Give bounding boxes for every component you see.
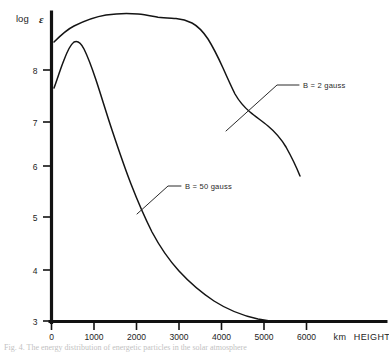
- curve-b2-gauss: [54, 13, 300, 176]
- y-tick-label-5: 5: [33, 213, 38, 223]
- annotation-label-b50: B = 50 gauss: [185, 182, 232, 191]
- figure-container: 8 7 6 5 4 3 0 1000 2000 3000 4000 5000 6…: [0, 0, 389, 355]
- y-tick-label-4: 4: [33, 266, 38, 276]
- y-axis-tick-labels: 8 7 6 5 4 3: [33, 66, 38, 327]
- x-axis-unit-label: km: [334, 332, 347, 342]
- leader-line-b2: [226, 85, 299, 131]
- y-tick-label-3: 3: [33, 317, 38, 327]
- plot-svg: 8 7 6 5 4 3 0 1000 2000 3000 4000 5000 6…: [0, 0, 389, 355]
- x-tick-label-6000: 6000: [297, 332, 316, 342]
- x-axis-tick-labels: 0 1000 2000 3000 4000 5000 6000: [49, 332, 316, 342]
- x-tick-label-2000: 2000: [127, 332, 146, 342]
- x-tick-label-4000: 4000: [212, 332, 231, 342]
- y-axis-ticks: [43, 70, 51, 321]
- annotation-b50-gauss: B = 50 gauss: [137, 182, 232, 214]
- curve-b50-gauss: [54, 41, 278, 321]
- caption-strip: Fig. 4. The energy distribution of energ…: [0, 343, 389, 355]
- y-tick-label-8: 8: [33, 66, 38, 76]
- x-tick-label-5000: 5000: [255, 332, 274, 342]
- x-axis-name-label: HEIGHT: [354, 332, 389, 342]
- y-axis-label-prefix: log: [16, 13, 29, 24]
- x-tick-label-1000: 1000: [85, 332, 104, 342]
- x-tick-label-0: 0: [49, 332, 54, 342]
- figure-caption: Fig. 4. The energy distribution of energ…: [4, 343, 247, 352]
- leader-line-b50: [137, 186, 181, 214]
- annotation-label-b2: B = 2 gauss: [303, 81, 346, 90]
- y-axis-label-symbol: ε: [39, 13, 44, 25]
- y-tick-label-6: 6: [33, 162, 38, 172]
- x-tick-label-3000: 3000: [170, 332, 189, 342]
- y-tick-label-7: 7: [33, 118, 38, 128]
